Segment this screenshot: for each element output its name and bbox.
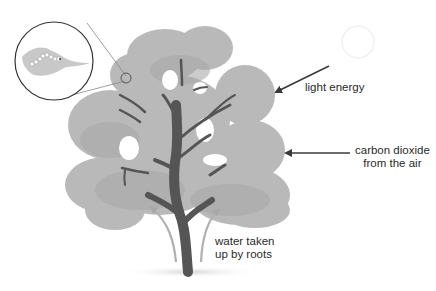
water-line1: water taken [215, 235, 274, 248]
light-energy-label: light energy [305, 81, 364, 94]
water-line2: up by roots [215, 248, 274, 261]
leaf-magnifier-inset [15, 22, 131, 100]
water-label: water taken up by roots [215, 235, 274, 261]
water-arrow-left [152, 208, 176, 262]
carbon-dioxide-line1: carbon dioxide [355, 144, 430, 157]
photosynthesis-diagram: light energy carbon dioxide from the air… [0, 0, 436, 291]
carbon-dioxide-line2: from the air [355, 157, 430, 170]
light-energy-text: light energy [305, 81, 364, 93]
carbon-dioxide-label: carbon dioxide from the air [355, 144, 430, 170]
sun-outline [342, 26, 374, 58]
